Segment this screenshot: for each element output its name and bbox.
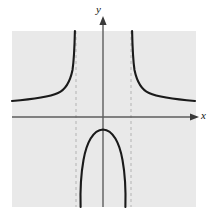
plot-background bbox=[12, 31, 196, 207]
x-axis-label: x bbox=[201, 110, 206, 121]
plot-canvas bbox=[0, 0, 213, 220]
function-graph-figure: y x bbox=[0, 0, 213, 220]
y-axis-label: y bbox=[96, 4, 101, 15]
y-axis-arrowhead bbox=[99, 16, 106, 25]
